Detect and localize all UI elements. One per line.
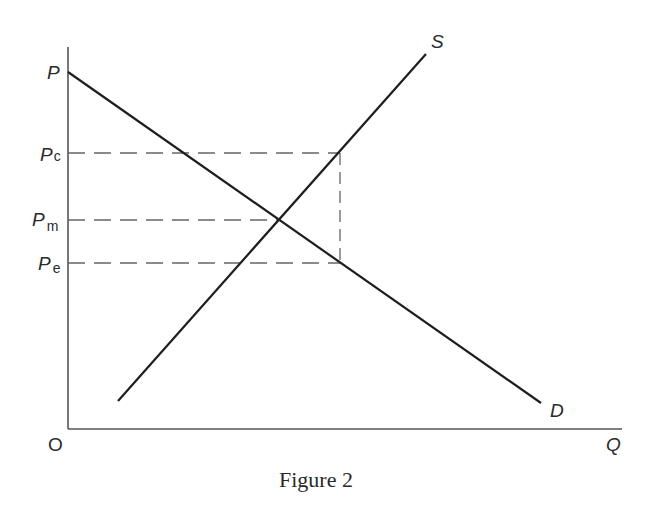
pm-label: Pm <box>32 209 58 234</box>
q-axis-label: Q <box>606 434 621 455</box>
supply-demand-diagram: P Pc Pm Pe S D Q O Figure 2 <box>0 0 650 513</box>
supply-label: S <box>431 31 444 52</box>
pc-label: Pc <box>40 144 61 165</box>
demand-curve <box>68 72 541 403</box>
pe-label: Pe <box>38 253 61 276</box>
figure-caption: Figure 2 <box>279 467 353 492</box>
p-axis-label: P <box>47 62 60 83</box>
origin-label: O <box>48 434 63 455</box>
supply-curve <box>118 54 426 401</box>
demand-label: D <box>550 400 564 421</box>
